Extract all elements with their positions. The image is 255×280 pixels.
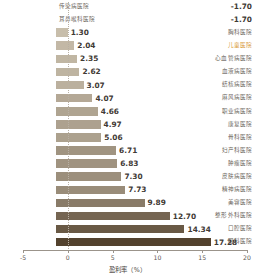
bar-chart: 传染病医院-1.70传染病医院耳鼻喉科医院-1.70耳鼻喉科医院胸科医院1.30…: [0, 0, 255, 280]
bar-row: 骨科医院5.06: [0, 131, 255, 144]
bar-track: 2.04: [56, 39, 255, 52]
x-axis-line: [23, 250, 247, 251]
bar-track: 14.34: [56, 223, 255, 236]
bar-track: 4.66: [56, 105, 255, 118]
bar-row: 麻风病医院4.07: [0, 92, 255, 105]
value-label: 2.35: [80, 54, 98, 63]
category-label: 耳鼻喉科医院: [59, 17, 99, 23]
value-label: 2.62: [82, 67, 100, 76]
value-label: 7.73: [128, 185, 146, 194]
x-axis: -505101520 盈利率（%）: [0, 250, 255, 280]
value-label: 4.07: [95, 94, 113, 103]
value-label: 12.70: [173, 212, 196, 221]
bar: [56, 133, 101, 142]
bar: [56, 199, 145, 208]
axis-tick-label: 10: [153, 254, 161, 261]
category-label: 传染病医院: [59, 4, 93, 10]
value-label: 1.30: [71, 28, 89, 37]
value-label: 14.34: [187, 225, 210, 234]
axis-tick-label: 15: [198, 254, 206, 261]
axis-tick-label: 20: [243, 254, 251, 261]
bar-track: 2.62: [56, 65, 255, 78]
bar-track: 7.73: [56, 183, 255, 196]
bar: [56, 146, 116, 155]
bar-row: 结核病医院3.07: [0, 79, 255, 92]
axis-tick-label: -5: [20, 254, 26, 261]
value-label: 17.28: [214, 238, 237, 247]
bar-row: 眼科医院17.28: [0, 236, 255, 249]
bar-row: 精神病医院7.73: [0, 183, 255, 196]
bar: [56, 55, 77, 64]
bar-track: 6.71: [56, 144, 255, 157]
axis-tick-label: 0: [66, 254, 70, 261]
axis-tick-label: 5: [111, 254, 115, 261]
bar-row: 胸科医院1.30: [0, 26, 255, 39]
value-label: 4.97: [104, 120, 122, 129]
bar: [56, 28, 68, 37]
bar-track: 4.07: [56, 92, 255, 105]
axis-tick: [157, 250, 158, 253]
bar-row: 妇产科医院6.71: [0, 144, 255, 157]
bar-row: 康复医院4.97: [0, 118, 255, 131]
value-label: 9.89: [148, 198, 166, 207]
value-label: -1.70: [199, 15, 255, 24]
axis-tick: [202, 250, 203, 253]
bar-row: 口腔医院14.34: [0, 223, 255, 236]
bar-row: 耳鼻喉科医院-1.70耳鼻喉科医院: [0, 13, 255, 26]
bar-row: 传染病医院-1.70传染病医院: [0, 0, 255, 13]
plot-area: 传染病医院-1.70传染病医院耳鼻喉科医院-1.70耳鼻喉科医院胸科医院1.30…: [0, 0, 255, 252]
bar-row: 皮肤病医院7.30: [0, 170, 255, 183]
bar-track: 12.70: [56, 210, 255, 223]
bar-row: 心血管病医院2.35: [0, 52, 255, 65]
axis-tick: [23, 250, 24, 253]
bar-track: 1.30: [56, 26, 255, 39]
value-label: 7.30: [124, 172, 142, 181]
bar-track: 17.28: [56, 236, 255, 249]
zero-reference-line: [68, 2, 69, 249]
bar-track: 9.89: [56, 196, 255, 209]
bar-track: 5.06: [56, 131, 255, 144]
x-axis-title: 盈利率（%）: [0, 265, 255, 274]
axis-tick: [68, 250, 69, 253]
bar: [56, 186, 125, 195]
bar: [56, 120, 101, 129]
value-label: -1.70: [199, 2, 255, 11]
bar-row: 血液病医院2.62: [0, 65, 255, 78]
bar: [56, 81, 84, 90]
bar: [56, 172, 121, 181]
bar-row: 职业病医院4.66: [0, 105, 255, 118]
axis-tick: [247, 250, 248, 253]
value-label: 5.06: [104, 133, 122, 142]
value-label: 6.83: [120, 159, 138, 168]
bar: [56, 41, 74, 50]
value-label: 6.71: [119, 146, 137, 155]
bar-row: 儿童医院2.04: [0, 39, 255, 52]
bar: [56, 212, 170, 221]
bar: [56, 238, 211, 247]
value-label: 3.07: [87, 81, 105, 90]
bar: [56, 107, 98, 116]
bar-track: 7.30: [56, 170, 255, 183]
axis-tick: [113, 250, 114, 253]
bar-row: 肿瘤医院6.83: [0, 157, 255, 170]
bar-track: 6.83: [56, 157, 255, 170]
bar: [56, 94, 92, 103]
bar-row: 美容医院9.89: [0, 196, 255, 209]
bar-row: 整形外科医院12.70: [0, 210, 255, 223]
value-label: 2.04: [77, 41, 95, 50]
value-label: 4.66: [101, 107, 119, 116]
bar-track: 3.07: [56, 79, 255, 92]
bar-track: 4.97: [56, 118, 255, 131]
bar: [56, 225, 184, 234]
bar: [56, 159, 117, 168]
bar-track: 2.35: [56, 52, 255, 65]
